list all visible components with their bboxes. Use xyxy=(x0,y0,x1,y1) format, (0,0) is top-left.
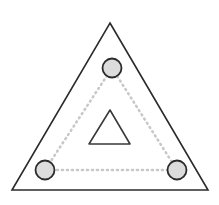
bottom-left-node[interactable] xyxy=(36,161,55,180)
diagram-canvas xyxy=(0,0,219,205)
triangle-diagram xyxy=(0,0,219,205)
top-node[interactable] xyxy=(103,59,122,78)
bottom-right-node[interactable] xyxy=(168,161,187,180)
